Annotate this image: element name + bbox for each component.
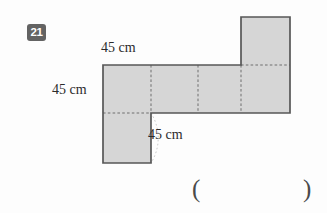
fill-row-1 [103,65,151,113]
answer-paren-open: ( [192,176,200,201]
fill-top-right [241,17,290,65]
net-fill [103,17,290,163]
answer-paren-close: ) [303,176,311,201]
fill-row-2 [151,65,198,113]
dimension-label-top: 45 cm [101,40,136,56]
cube-net-diagram [0,0,327,213]
fill-row-4 [241,65,290,113]
fill-row-3 [198,65,241,113]
dimension-label-bottom: 45 cm [148,127,183,143]
fill-bottom-left [103,113,151,163]
worksheet-page: 21 45 cm 45 [0,0,327,213]
dimension-label-left: 45 cm [52,82,87,98]
